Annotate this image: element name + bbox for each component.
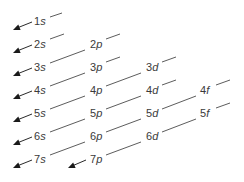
connector-line-7p [106,142,141,155]
orbital-label-4s: 4s [34,84,46,96]
orbital-label-6p: 6p [90,130,102,142]
orbital-label-7p: 7p [90,153,102,165]
connector-line-4p [106,73,141,86]
arrow-icon-2s [13,45,32,53]
arrow-icon-1s [13,22,32,30]
connector-line-6p [106,119,141,132]
orbital-labels: 1s2s2p3s3p3d4s4p4d4f5s5p5d5f6s6p6d7s7p [34,15,210,165]
connector-line-3p [106,57,120,62]
orbital-label-7s: 7s [34,153,46,165]
connector-line-4s [50,73,85,86]
orbital-label-5p: 5p [90,107,102,119]
arrow-icon-4s [13,91,32,99]
orbital-label-5f: 5f [200,107,210,119]
connector-line-3s [50,50,85,63]
orbital-label-3d: 3d [146,61,159,73]
orbital-label-4f: 4f [200,84,210,96]
arrow-icon-3s [13,68,32,76]
arrow-icon-7p [68,160,86,168]
orbital-label-4p: 4p [90,84,102,96]
orbital-label-3p: 3p [90,61,102,73]
connector-line-5p [106,96,141,109]
connector-line-5f [216,103,230,108]
arrow-icon-5s [13,114,32,122]
orbital-label-2p: 2p [90,38,102,50]
orbital-label-3s: 3s [34,61,46,73]
orbital-label-6s: 6s [34,130,46,142]
connector-line-4f [216,80,230,85]
orbital-label-2s: 2s [34,38,46,50]
orbital-label-4d: 4d [146,84,159,96]
arrow-icon-6s [13,137,32,145]
connector-line-4d [162,80,176,85]
orbital-label-6d: 6d [146,130,159,142]
orbital-filling-diagram: 1s2s2p3s3p3d4s4p4d4f5s5p5d5f6s6p6d7s7p [0,0,244,182]
connector-line-2p [106,34,120,39]
connector-line-2s [50,34,64,39]
connector-line-3d [162,57,176,62]
connector-line-6d [162,119,196,132]
connector-line-6s [50,119,85,132]
orbital-label-5s: 5s [34,107,46,119]
connector-line-5d [162,96,196,109]
connector-line-5s [50,96,85,109]
orbital-label-5d: 5d [146,107,159,119]
orbital-label-1s: 1s [34,15,46,27]
connector-line-1s [50,13,62,17]
arrow-icon-7s [13,160,32,168]
connector-line-7s [50,142,85,155]
